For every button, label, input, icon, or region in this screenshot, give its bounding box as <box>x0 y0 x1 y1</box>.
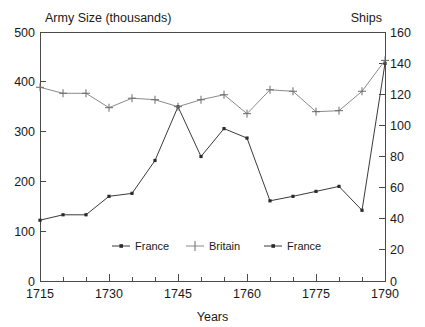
data-point-marker <box>38 219 41 222</box>
data-point-marker <box>314 190 317 193</box>
x-tick-label: 1775 <box>302 287 330 301</box>
y2-tick-label: 40 <box>390 212 404 226</box>
x-tick-label: 1730 <box>95 287 123 301</box>
series-line-france-0 <box>40 63 385 220</box>
series-line-britain-1 <box>40 60 385 113</box>
data-point-marker <box>82 89 90 97</box>
x-tick-label: 1715 <box>26 287 54 301</box>
data-point-marker <box>36 83 44 91</box>
y2-tick-label: 140 <box>390 57 411 71</box>
y-tick-label: 500 <box>14 26 35 40</box>
legend-item-0: France <box>112 240 169 252</box>
y2-tick-label: 60 <box>390 181 404 195</box>
x-tick-label: 1790 <box>371 287 399 301</box>
y-tick-label: 100 <box>14 225 35 239</box>
y-tick-label: 300 <box>14 125 35 139</box>
data-point-marker <box>128 94 136 102</box>
y2-tick-label: 160 <box>390 26 411 40</box>
y2-tick-label: 120 <box>390 88 411 102</box>
data-point-marker <box>268 199 271 202</box>
data-point-marker <box>84 213 87 216</box>
data-point-marker <box>61 213 64 216</box>
data-point-marker <box>197 96 205 104</box>
data-point-marker <box>130 192 133 195</box>
y2-tick-label: 20 <box>390 243 404 257</box>
y2-tick-label: 80 <box>390 150 404 164</box>
data-point-marker <box>59 89 67 97</box>
data-point-marker <box>107 195 110 198</box>
chart-figure: Army Size (thousands)ShipsYears 01002003… <box>0 0 425 327</box>
data-point-marker <box>245 136 248 139</box>
legend-label: France <box>287 240 321 252</box>
legend-label: France <box>135 240 169 252</box>
data-point-marker <box>105 104 113 112</box>
y2-axis-title: Ships <box>351 11 382 25</box>
data-point-marker <box>222 127 225 130</box>
y-axis-title: Army Size (thousands) <box>45 11 171 25</box>
y-tick-label: 200 <box>14 175 35 189</box>
data-point-marker <box>151 96 159 104</box>
data-point-marker <box>174 103 182 111</box>
y2-tick-label: 100 <box>390 119 411 133</box>
legend-item-1: Britain <box>186 240 240 252</box>
square-icon <box>119 244 123 248</box>
legend-item-2: France <box>264 240 321 252</box>
data-point-marker <box>360 209 363 212</box>
data-point-marker <box>153 159 156 162</box>
square-icon <box>271 244 275 248</box>
x-tick-label: 1745 <box>164 287 192 301</box>
chart-canvas: Army Size (thousands)ShipsYears 01002003… <box>0 0 425 327</box>
y-tick-label: 400 <box>14 75 35 89</box>
x-axis-title: Years <box>197 310 229 324</box>
legend-label: Britain <box>209 240 240 252</box>
data-point-marker <box>199 155 202 158</box>
x-tick-label: 1760 <box>233 287 261 301</box>
data-point-marker <box>291 195 294 198</box>
data-point-marker <box>337 185 340 188</box>
